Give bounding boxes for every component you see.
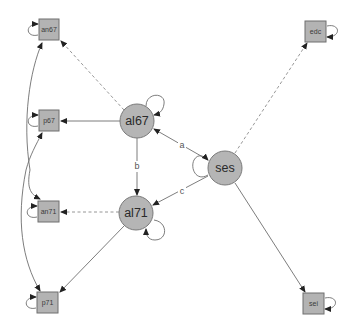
manifest-node-p71[interactable]: p71 (37, 292, 58, 313)
edge-label-a: a (178, 140, 186, 150)
latent-node-ses[interactable]: ses (208, 151, 242, 185)
path-al71-to-p71 (60, 226, 124, 292)
node-label: an67 (41, 26, 57, 33)
path-ses-to-sei (235, 183, 305, 292)
variance-loop-sei (325, 298, 336, 309)
manifest-node-an67[interactable]: an67 (39, 19, 59, 40)
node-label: al71 (124, 206, 148, 220)
node-label: p71 (42, 299, 54, 307)
latent-node-al71[interactable]: al71 (119, 196, 153, 230)
variance-loop-an67 (28, 24, 38, 35)
node-label: edc (310, 28, 322, 35)
variance-loop-p67 (28, 115, 38, 126)
node-label: sei (309, 300, 318, 307)
variance-loop-an71 (27, 206, 37, 217)
svg-text:c: c (180, 186, 185, 196)
manifest-node-edc[interactable]: edc (305, 21, 326, 42)
node-label: an71 (41, 208, 57, 215)
variance-loop-p71 (26, 297, 36, 308)
node-label: al67 (125, 114, 149, 128)
edge-label-c: c (178, 186, 186, 196)
manifest-node-sei[interactable]: sei (303, 293, 324, 314)
node-label: p67 (43, 117, 55, 125)
latent-node-al67[interactable]: al67 (120, 104, 154, 138)
path-al67-to-an67 (61, 41, 124, 110)
node-label: ses (215, 161, 234, 175)
manifest-node-p67[interactable]: p67 (39, 110, 59, 131)
svg-text:a: a (179, 140, 184, 150)
manifest-node-an71[interactable]: an71 (38, 201, 59, 222)
edge-label-b: b (133, 161, 141, 172)
svg-text:b: b (134, 161, 139, 171)
sem-path-diagram: a b c al67 al71 (0, 0, 358, 334)
path-ses-to-edc (235, 43, 307, 153)
variance-loop-edc (327, 26, 338, 37)
